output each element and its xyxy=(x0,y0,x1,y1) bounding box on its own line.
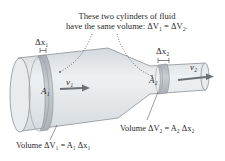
dx1-marker xyxy=(40,48,46,53)
v2-arrow-head xyxy=(206,74,214,81)
v1-arrow-shaft xyxy=(60,88,82,89)
leader-volume-2 xyxy=(147,92,158,120)
v1-label: v₁ xyxy=(66,77,73,87)
v2-label: v₂ xyxy=(190,62,197,72)
A1-label: A₁ xyxy=(41,86,50,96)
caption: These two cylinders of fluid have the sa… xyxy=(48,11,206,31)
dx1-label: Δx₁ xyxy=(35,37,48,47)
volume-2-label: Volume ΔV₂ = A₂ Δx₂ xyxy=(120,124,194,133)
pipe-left-opening xyxy=(10,58,30,132)
caption-line-2: have the same volume: ΔV₁ = ΔV₂. xyxy=(48,21,206,31)
A2-label: A₂ xyxy=(149,75,158,85)
volume-1-label: Volume ΔV₁ = A₁ Δx₁ xyxy=(16,141,90,150)
dx2-marker xyxy=(158,58,169,63)
dx2-label: Δx₂ xyxy=(156,46,169,56)
caption-line-1: These two cylinders of fluid xyxy=(48,11,206,21)
